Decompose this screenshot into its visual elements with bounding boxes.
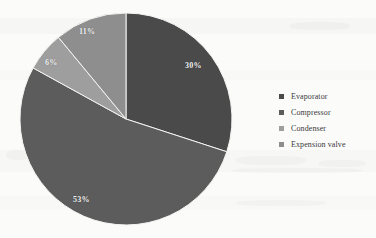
legend-item-label: Compressor — [291, 108, 331, 117]
chart-legend: Evaporator Compressor Condenser Expensio… — [279, 88, 373, 152]
legend-swatch-icon — [279, 110, 284, 115]
legend-item-condenser: Condenser — [279, 120, 373, 136]
pie-slice-group — [20, 13, 232, 225]
slice-value-label-condenser: 6% — [45, 58, 57, 67]
legend-item-expension-valve: Expension valve — [279, 136, 373, 152]
legend-item-compressor: Compressor — [279, 104, 373, 120]
pie-chart-figure: 30% 53% 6% 11% Evaporator Compressor Con… — [0, 0, 376, 238]
slice-value-label-expension-valve: 11% — [79, 27, 95, 36]
legend-item-label: Expension valve — [291, 140, 346, 149]
legend-swatch-icon — [279, 94, 284, 99]
scan-artifact-smudge — [236, 200, 326, 206]
slice-value-label-evaporator: 30% — [185, 61, 202, 70]
legend-item-evaporator: Evaporator — [279, 88, 373, 104]
legend-item-label: Condenser — [291, 124, 326, 133]
legend-swatch-icon — [279, 126, 284, 131]
scan-artifact-smudge — [236, 156, 306, 165]
pie-chart — [19, 12, 233, 226]
scan-artifact-smudge — [318, 160, 366, 167]
slice-value-label-compressor: 53% — [73, 195, 90, 204]
scan-artifact-smudge — [232, 168, 362, 173]
scan-artifact-smudge — [290, 22, 350, 30]
pie-svg — [19, 12, 233, 226]
legend-swatch-icon — [279, 142, 284, 147]
legend-item-label: Evaporator — [291, 92, 328, 101]
